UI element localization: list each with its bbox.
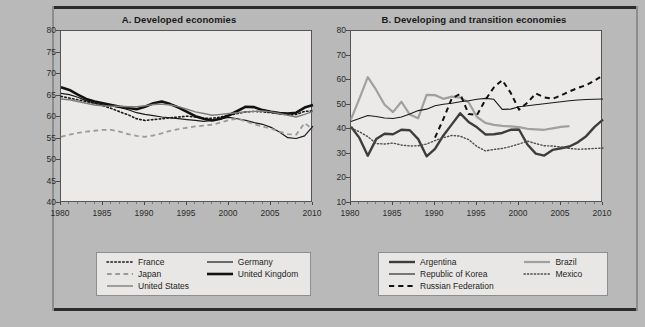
frame-right-rule	[636, 6, 638, 311]
panel-a-ytick-mark	[56, 116, 60, 117]
legend-item-label: Mexico	[555, 269, 582, 279]
panel-a-line-france	[61, 96, 313, 120]
panel-a-line-japan	[61, 119, 313, 137]
panel-a-xtick-label: 1995	[170, 208, 202, 218]
legend-item-argentina[interactable]: Argentina	[389, 256, 510, 268]
panel-b-line-argentina	[351, 113, 603, 156]
legend-swatch-icon	[524, 269, 550, 279]
panel-a-ytick-label: 75	[34, 47, 56, 57]
legend-grid: ArgentinaBrazilRepublic of KoreaMexicoRu…	[379, 253, 607, 295]
panel-a-ytick-label: 50	[34, 154, 56, 164]
panel-developing-transition-economies: B. Developing and transition economies 1…	[324, 14, 624, 244]
panel-b-xtick-label: 1980	[334, 208, 366, 218]
panel-a-ytick-mark	[56, 73, 60, 74]
legend-item-united-states[interactable]: United States	[107, 280, 193, 292]
legend-item-label: Brazil	[555, 257, 576, 267]
panel-b-ytick-label: 70	[324, 50, 346, 60]
panel-b-ytick-label: 10	[324, 197, 346, 207]
panel-b-xtick-label: 2010	[586, 208, 618, 218]
panel-b-series-canvas	[351, 31, 603, 203]
panel-a-series-canvas	[61, 31, 313, 203]
legend-item-label: Republic of Korea	[420, 269, 488, 279]
panel-b-line-brazil	[351, 77, 569, 130]
panel-b-xtick-label: 1995	[460, 208, 492, 218]
panel-a-ytick-mark	[56, 95, 60, 96]
panel-b-line-mexico	[351, 128, 603, 151]
panel-b-ytick-label: 60	[324, 74, 346, 84]
legend-grid: FranceGermanyJapanUnited KingdomUnited S…	[97, 253, 310, 295]
panel-a-ytick-mark	[56, 30, 60, 31]
legend-item-republic-of-korea[interactable]: Republic of Korea	[389, 268, 510, 280]
panel-a-ytick-mark	[56, 159, 60, 160]
panel-a-xtick-label: 1990	[128, 208, 160, 218]
legend-item-mexico[interactable]: Mexico	[524, 268, 599, 280]
panel-b-ytick-label: 80	[324, 25, 346, 35]
legend-spacer	[524, 280, 599, 292]
legend-panel-b: ArgentinaBrazilRepublic of KoreaMexicoRu…	[378, 252, 608, 296]
legend-item-france[interactable]: France	[107, 256, 193, 268]
legend-swatch-icon	[107, 281, 133, 291]
panel-a-xtick-label: 1980	[44, 208, 76, 218]
panel-b-ytick-mark	[346, 104, 350, 105]
panel-a-ytick-label: 60	[34, 111, 56, 121]
panel-b-ytick-mark	[346, 30, 350, 31]
panel-b-xtick-label: 2005	[544, 208, 576, 218]
legend-swatch-icon	[389, 257, 415, 267]
legend-swatch-icon	[207, 257, 233, 267]
legend-item-label: United Kingdom	[238, 269, 298, 279]
panel-b-ytick-mark	[346, 79, 350, 80]
panel-a-xtick-label: 2000	[212, 208, 244, 218]
panel-b-ytick-label: 20	[324, 172, 346, 182]
legend-swatch-icon	[389, 281, 415, 291]
legend-swatch-icon	[107, 257, 133, 267]
legend-panel-a: FranceGermanyJapanUnited KingdomUnited S…	[96, 252, 311, 296]
legend-item-japan[interactable]: Japan	[107, 268, 193, 280]
legend-item-label: Russian Federation	[420, 281, 494, 291]
panel-a-ytick-label: 40	[34, 197, 56, 207]
panel-a-ytick-mark	[56, 138, 60, 139]
legend-item-label: Japan	[138, 269, 161, 279]
panel-b-xtick-label: 1985	[376, 208, 408, 218]
panel-a-ytick-mark	[56, 181, 60, 182]
panel-a-ytick-label: 45	[34, 176, 56, 186]
figure-container: A. Developed economies 40455055606570758…	[0, 0, 645, 327]
legend-item-united-kingdom[interactable]: United Kingdom	[207, 268, 302, 280]
panel-b-ytick-mark	[346, 55, 350, 56]
legend-item-brazil[interactable]: Brazil	[524, 256, 599, 268]
legend-item-russian-federation[interactable]: Russian Federation	[389, 280, 510, 292]
panel-a-ytick-label: 70	[34, 68, 56, 78]
panel-b-xtick-label: 2000	[502, 208, 534, 218]
panel-a-ytick-label: 55	[34, 133, 56, 143]
panel-a-ytick-label: 65	[34, 90, 56, 100]
legend-item-germany[interactable]: Germany	[207, 256, 302, 268]
legend-swatch-icon	[524, 257, 550, 267]
legend-spacer	[207, 280, 302, 292]
panel-b-ytick-mark	[346, 177, 350, 178]
panel-b-xtick-label: 1990	[418, 208, 450, 218]
legend-item-label: Argentina	[420, 257, 456, 267]
panel-a-xtick-label: 2005	[254, 208, 286, 218]
panel-a-ytick-label: 80	[34, 25, 56, 35]
panel-b-ytick-mark	[346, 128, 350, 129]
legend-swatch-icon	[107, 269, 133, 279]
panel-b-ytick-label: 50	[324, 99, 346, 109]
legend-item-label: United States	[138, 281, 189, 291]
panel-b-ytick-label: 30	[324, 148, 346, 158]
legend-swatch-icon	[207, 269, 233, 279]
frame-top-rule	[52, 6, 638, 9]
panel-a-title: A. Developed economies	[34, 14, 324, 25]
panel-developed-economies: A. Developed economies 40455055606570758…	[34, 14, 324, 244]
panel-b-ytick-label: 40	[324, 123, 346, 133]
frame-bottom-rule	[52, 308, 638, 311]
legend-item-label: France	[138, 257, 164, 267]
legend-item-label: Germany	[238, 257, 273, 267]
panel-a-xtick-label: 1985	[86, 208, 118, 218]
legend-swatch-icon	[389, 269, 415, 279]
panel-b-ytick-mark	[346, 153, 350, 154]
panel-a-ytick-mark	[56, 52, 60, 53]
panel-b-title: B. Developing and transition economies	[324, 14, 624, 25]
